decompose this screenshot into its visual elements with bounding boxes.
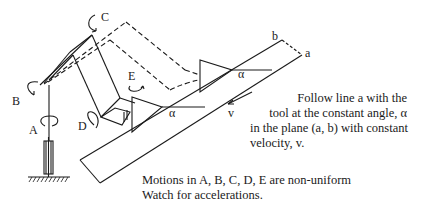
label-line-a: a [305,47,310,59]
label-d: D [78,120,87,132]
label-e: E [128,70,135,82]
arm-dashed [44,22,200,90]
rotation-arrow-b [28,82,38,95]
label-b: B [12,95,20,107]
rotation-arrow-d [88,112,98,128]
label-c: C [101,11,109,23]
label-velocity: v [228,107,234,119]
instruction-line-2: tool at the constant angle, α [269,106,407,121]
ground-base [28,177,70,182]
instruction-line-4: velocity, v. [250,136,304,151]
label-line-b: b [272,30,278,42]
tool-position-2 [200,60,272,92]
rotation-arrow-c [89,15,96,32]
label-angle-1: α [169,107,175,119]
label-angle-2: α [238,68,244,80]
instruction-line-3: in the plane (a, b) with constant [250,121,408,136]
rotation-arrow-e [129,86,144,91]
arm-solid [40,35,135,125]
base-cylinder [44,137,53,177]
note-line-1: Motions in A, B, C, D, E are non-uniform [142,173,351,188]
note-line-2: Watch for accelerations. [142,188,263,203]
label-a: A [29,124,38,136]
instruction-line-1: Follow line a with the [297,91,407,106]
